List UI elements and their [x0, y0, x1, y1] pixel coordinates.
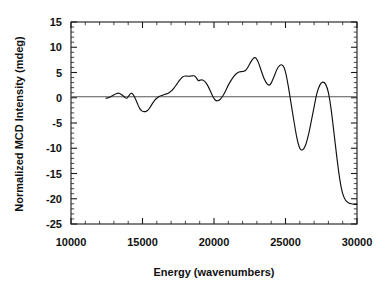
x-tick-label: 10000 [56, 236, 87, 248]
x-tick-label: 30000 [342, 236, 373, 248]
y-tick-label: 10 [50, 41, 62, 53]
plot-frame [71, 22, 357, 224]
x-tick-label: 20000 [199, 236, 230, 248]
axis-ticks [71, 22, 357, 224]
y-tick-label: -5 [52, 117, 62, 129]
y-tick-label: 5 [56, 67, 62, 79]
y-tick-label: -20 [46, 193, 62, 205]
x-tick-label: 25000 [270, 236, 301, 248]
x-tick-label: 15000 [127, 236, 158, 248]
y-tick-label: 15 [50, 16, 62, 28]
y-tick-label: 0 [56, 92, 62, 104]
x-axis-title: Energy (wavenumbers) [153, 266, 274, 278]
y-tick-label: -10 [46, 142, 62, 154]
y-tick-label: -15 [46, 168, 62, 180]
data-series-mcd-spectrum [106, 58, 357, 205]
x-tick-labels: 1000015000200002500030000 [56, 236, 373, 248]
chart-page: Normalized MCD Intensity (mdeg) Energy (… [0, 0, 385, 286]
y-tick-labels: -25-20-15-10-5051015 [46, 16, 62, 230]
mcd-spectrum-chart: Normalized MCD Intensity (mdeg) Energy (… [0, 0, 385, 286]
y-axis-title: Normalized MCD Intensity (mdeg) [13, 36, 25, 212]
y-tick-label: -25 [46, 218, 62, 230]
